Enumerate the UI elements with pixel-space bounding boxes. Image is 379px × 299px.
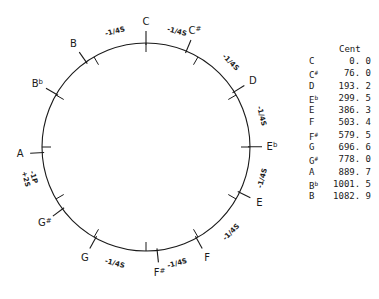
et-tick <box>194 57 199 65</box>
cents-table-row: D193. 2 <box>309 80 371 92</box>
note-label: A <box>17 148 24 159</box>
note-tick <box>30 152 44 153</box>
note-tick <box>186 40 191 53</box>
note-label: F# <box>154 267 166 278</box>
note-name: B <box>309 190 314 202</box>
svg-text:-1/4S: -1/4S <box>104 25 126 38</box>
svg-text:-1/4S: -1/4S <box>104 257 126 270</box>
svg-text:-1/4S: -1/4S <box>221 53 241 73</box>
cents-value: 193. 2 <box>338 80 371 92</box>
comma-label: -1/4S <box>221 53 241 73</box>
note-label: D <box>249 75 257 86</box>
et-tick <box>94 229 99 237</box>
note-name: E <box>309 104 314 116</box>
comma-label: -1/4S <box>256 167 269 189</box>
cents-value: 503. 4 <box>338 116 371 128</box>
note-tick <box>79 52 87 63</box>
cents-value: 0. 0 <box>349 55 371 67</box>
svg-text:-1/4S: -1/4S <box>221 222 241 242</box>
comma-label: -1/4S <box>255 105 268 127</box>
cents-table-row: C0. 0 <box>309 55 371 67</box>
note-label: Eb <box>267 141 278 152</box>
note-label: B <box>70 38 77 49</box>
cents-table-row: Bb1001. 5 <box>309 178 371 190</box>
et-tick <box>94 57 99 65</box>
cents-table-row: G#778. 0 <box>309 153 371 165</box>
note-label: C <box>143 16 150 27</box>
et-tick <box>228 95 236 100</box>
cents-table-row: B1082. 9 <box>309 190 371 202</box>
comma-label: -1/4S <box>221 222 241 242</box>
cents-table-row: G696. 6 <box>309 141 371 153</box>
cents-value: 76. 0 <box>344 67 371 79</box>
note-tick <box>90 236 97 248</box>
svg-text:-1/4S: -1/4S <box>255 105 268 127</box>
cents-value: 778. 0 <box>338 153 371 165</box>
svg-text:-1/4S: -1/4S <box>256 167 269 189</box>
et-tick <box>56 195 64 200</box>
comma-label: -1P+2S <box>20 168 40 187</box>
note-tick <box>195 236 202 248</box>
svg-text:-1/4S: -1/4S <box>166 257 188 270</box>
note-tick <box>232 85 244 92</box>
cents-table-row: Eb299. 5 <box>309 92 371 104</box>
et-tick <box>228 195 236 200</box>
cents-value: 579. 5 <box>338 129 371 141</box>
cents-table: Cent C0. 0C#76. 0D193. 2Eb299. 5E386. 3F… <box>309 55 371 203</box>
svg-text:-1/4S: -1/4S <box>166 25 188 38</box>
note-label: Bb <box>32 78 44 89</box>
cents-table-row: A889. 7 <box>309 166 371 178</box>
note-label: C# <box>188 25 201 36</box>
cents-table-row: C#76. 0 <box>309 67 371 79</box>
note-name: C <box>309 55 314 67</box>
cents-value: 889. 7 <box>338 166 371 178</box>
note-label: G# <box>38 217 52 228</box>
note-tick <box>238 192 251 198</box>
comma-label: -1/4S <box>166 257 188 270</box>
cents-table-header: Cent <box>339 43 361 55</box>
comma-label: -1/4S <box>104 25 126 38</box>
cents-table-row: E386. 3 <box>309 104 371 116</box>
circle <box>42 43 250 251</box>
cents-value: 696. 6 <box>338 141 371 153</box>
note-label: E <box>256 197 262 208</box>
note-label: G <box>81 252 89 263</box>
note-name: A <box>309 166 314 178</box>
note-name: F <box>309 116 314 128</box>
cents-value: 1001. 5 <box>333 178 371 190</box>
note-tick <box>46 88 58 95</box>
et-tick <box>194 229 199 237</box>
comma-label: -1/4S <box>166 25 188 38</box>
cents-table-row: F503. 4 <box>309 116 371 128</box>
note-label: F <box>204 252 210 263</box>
cents-value: 1082. 9 <box>333 190 371 202</box>
note-name: D <box>309 80 314 92</box>
cents-value: 386. 3 <box>338 104 371 116</box>
note-name: G <box>309 141 314 153</box>
cents-value: 299. 5 <box>338 92 371 104</box>
et-tick <box>56 95 64 100</box>
note-tick <box>53 208 64 216</box>
comma-label: -1/4S <box>104 257 126 270</box>
cents-table-row: F#579. 5 <box>309 129 371 141</box>
